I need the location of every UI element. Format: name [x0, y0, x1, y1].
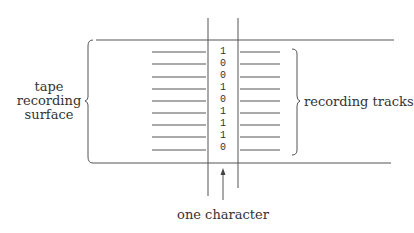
bit-7: 1	[220, 118, 226, 129]
bit-4: 1	[220, 82, 226, 93]
bit-5: 0	[220, 94, 226, 105]
bit-8: 1	[220, 130, 226, 141]
character-bits: 1 0 0 1 0 1 1 1 0	[220, 46, 226, 153]
label-one-character: one character	[177, 207, 270, 222]
bit-9: 0	[220, 142, 226, 153]
tape-diagram: 1 0 0 1 0 1 1 1 0 tape recording surface…	[0, 0, 414, 233]
arrow-up-icon	[221, 168, 226, 175]
label-recording: recording	[17, 93, 81, 108]
bit-3: 0	[220, 70, 226, 81]
label-surface: surface	[25, 107, 74, 122]
bit-1: 1	[220, 46, 226, 57]
label-recording-tracks: recording tracks	[304, 94, 414, 109]
label-tape: tape	[35, 79, 64, 94]
recording-tracks	[152, 52, 280, 150]
left-brace	[85, 40, 93, 163]
right-brace	[292, 49, 300, 155]
bit-2: 0	[220, 58, 226, 69]
bit-6: 1	[220, 106, 226, 117]
